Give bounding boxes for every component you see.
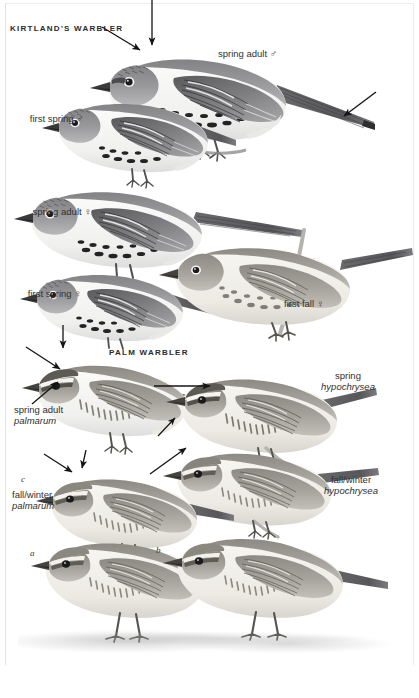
label-kirtlands-first-fall-female: first fall ♀ — [284, 298, 324, 309]
label-text: spring — [335, 370, 361, 381]
label-kirtlands-spring-adult-male: spring adult ♂ — [218, 48, 277, 59]
figure-marker-a: a — [30, 548, 35, 558]
label-palm-spring-adult-palmarum: spring adult palmarum — [14, 404, 63, 426]
label-subspecies: hypochrysea — [300, 381, 396, 392]
bird-palm-standing-b — [168, 512, 393, 642]
label-subspecies: palmarum — [14, 415, 63, 426]
label-text: first fall — [284, 298, 314, 309]
label-kirtlands-first-spring-male: first spring ♂ — [0, 113, 84, 124]
figure-marker-b: b — [156, 545, 161, 555]
sex-symbol: ♂ — [76, 113, 84, 124]
label-subspecies: hypochrysea — [298, 485, 404, 496]
label-text: fall/winter — [12, 489, 52, 500]
label-text: first spring — [28, 288, 72, 299]
label-text: spring adult — [218, 48, 267, 59]
bird-kirtlands-first-fall-female — [164, 222, 414, 342]
sex-symbol: ♀ — [317, 298, 325, 309]
label-palm-fall-winter-palmarum: fall/winter palmarum — [12, 489, 54, 511]
label-text: spring adult — [14, 404, 63, 415]
label-text: fall/winter — [331, 474, 371, 485]
label-text: spring adult — [33, 206, 82, 217]
label-text: first spring — [30, 113, 74, 124]
figure-marker-c: c — [21, 474, 25, 484]
sex-symbol: ♂ — [270, 48, 278, 59]
sex-symbol: ♀ — [74, 288, 82, 299]
label-palm-fall-winter-hypochrysea: fall/winter hypochrysea — [298, 474, 404, 496]
label-subspecies: palmarum — [12, 500, 54, 511]
label-kirtlands-first-spring-female: first spring ♀ — [0, 288, 82, 299]
label-palm-spring-hypochrysea: spring hypochrysea — [300, 370, 396, 392]
sex-symbol: ♀ — [84, 206, 92, 217]
field-guide-plate: KIRTLAND'S WARBLER — [0, 0, 419, 698]
label-kirtlands-spring-adult-female: spring adult ♀ — [0, 206, 92, 217]
